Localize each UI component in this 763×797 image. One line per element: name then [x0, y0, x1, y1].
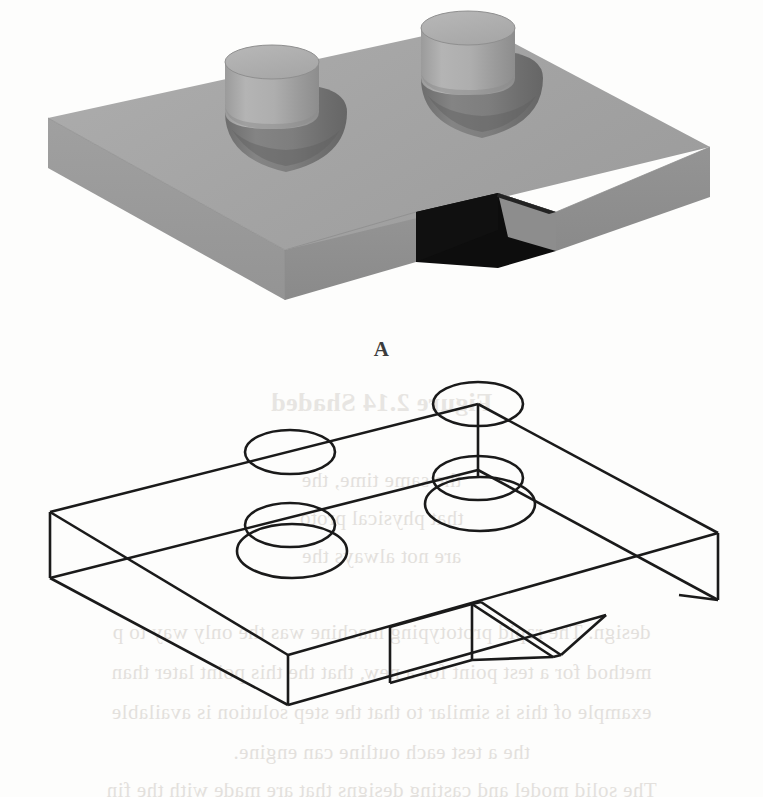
edge-bottom-front-right: [288, 615, 606, 705]
wireframe-edges: [50, 382, 718, 705]
notch-floor-right-edge: [472, 657, 553, 660]
edge-top-back-left: [50, 404, 478, 512]
edge-bottom-back-right: [478, 470, 718, 600]
boss-right-fillet-circle: [425, 477, 535, 531]
edge-bottom-back-left: [50, 470, 478, 578]
panel-b-wireframe-model: B: [0, 380, 763, 797]
panel-a-caption: A: [0, 337, 763, 362]
edge-bottom-front-left: [50, 578, 288, 705]
edge-top-back-right: [478, 404, 718, 533]
panel-a-shaded-model: A: [0, 0, 763, 395]
notch-top-left-edge: [390, 604, 472, 627]
shaded-solid-illustration: [0, 0, 763, 395]
wireframe-illustration: [0, 380, 763, 797]
boss-left-fillet-circle: [237, 524, 347, 578]
notch-ramp-foot: [553, 655, 561, 657]
figure-page: Figure 2.14 Shaded the same time, the th…: [0, 0, 763, 797]
edge-top-front-right: [288, 533, 718, 655]
block-solid-body: [48, 24, 710, 300]
